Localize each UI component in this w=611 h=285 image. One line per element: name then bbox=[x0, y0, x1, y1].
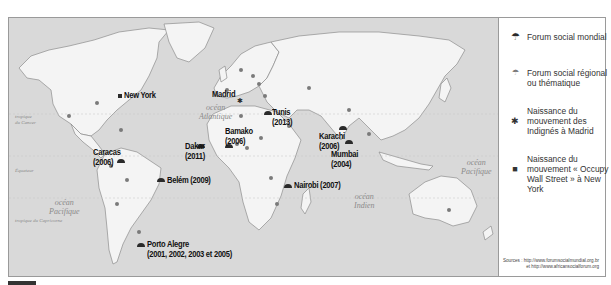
sources-note: Sources : http://www.forumsocialmundial.… bbox=[499, 258, 599, 270]
figure-tab-bar bbox=[8, 281, 36, 285]
label-caracas: Caracas(2006) bbox=[93, 148, 121, 167]
label-bamako: Bamako(2006) bbox=[225, 127, 253, 146]
marker-mumbai bbox=[345, 140, 353, 144]
legend-item-world-forum: ☂ Forum social mondial bbox=[509, 32, 609, 42]
world-map-svg: ✱ bbox=[9, 18, 498, 276]
ocean-atlantic: océanAtlantique bbox=[199, 103, 232, 121]
marker-new-york bbox=[118, 94, 122, 98]
legend-item-indignes: ✱ Naissance du mouvement des Indignés à … bbox=[509, 106, 609, 136]
ocean-indian: océanIndien bbox=[354, 192, 374, 210]
madagascar bbox=[301, 188, 311, 214]
north-america bbox=[19, 28, 169, 136]
marker-nairobi bbox=[284, 184, 292, 188]
label-tropic-cancer: tropiquedu Cancer bbox=[15, 114, 36, 126]
label-equator: Équateur bbox=[15, 168, 34, 174]
legend-item-regional-forum: ☂ Forum social régional ou thématique bbox=[509, 68, 609, 88]
greenland bbox=[164, 22, 214, 62]
label-belem: Belém (2009) bbox=[167, 176, 211, 186]
new-zealand bbox=[483, 226, 493, 240]
world-forum-icon: ☂ bbox=[509, 32, 521, 42]
legend-item-occupy: ■ Naissance du mouvement « Occupy Wall S… bbox=[509, 154, 609, 194]
regional-forum-icon: ☂ bbox=[509, 68, 521, 78]
square-icon: ■ bbox=[509, 164, 521, 174]
ocean-pacific-west: océanPacifique bbox=[49, 198, 80, 216]
ocean-pacific-east: océanPacifique bbox=[461, 158, 492, 176]
label-tunis: Tunis(2013) bbox=[272, 108, 292, 127]
indonesia bbox=[379, 152, 433, 170]
label-porto-alegre: Porto Alegre(2001, 2002, 2003 et 2005) bbox=[147, 240, 232, 259]
label-nairobi: Nairobi (2007) bbox=[294, 181, 340, 191]
label-madrid: Madrid bbox=[212, 90, 235, 100]
label-new-york: New York bbox=[124, 91, 156, 101]
australia bbox=[409, 176, 477, 226]
label-mumbai: Mumbai(2004) bbox=[331, 150, 358, 169]
label-tropic-capricorn: tropique du Capricorne bbox=[15, 218, 62, 224]
map-frame: ✱ océanAtlantique océanPacifique océanPa… bbox=[8, 17, 606, 277]
asterisk-icon: ✱ bbox=[509, 116, 521, 126]
world-map: ✱ océanAtlantique océanPacifique océanPa… bbox=[9, 18, 499, 276]
legend: ☂ Forum social mondial ☂ Forum social ré… bbox=[499, 18, 605, 276]
marker-madrid: ✱ bbox=[237, 97, 243, 104]
label-dakar: Dakar(2011) bbox=[185, 142, 205, 161]
marker-porto-alegre bbox=[137, 243, 145, 247]
